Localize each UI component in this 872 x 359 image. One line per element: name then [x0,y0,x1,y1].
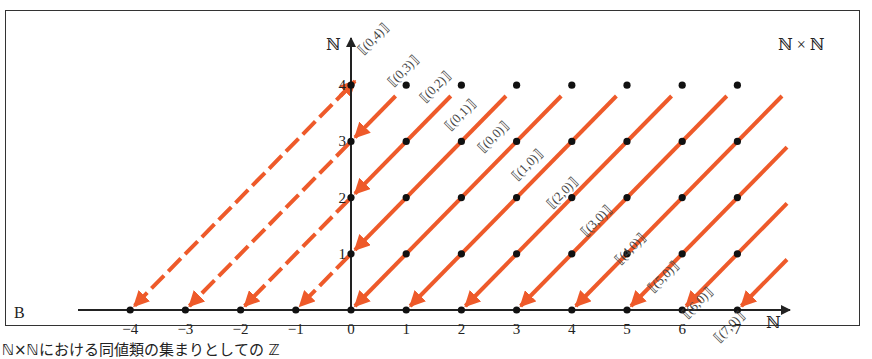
x-tick-label: 0 [347,321,355,337]
x-tick-label: −4 [122,321,138,337]
equivalence-line [355,96,561,306]
lattice-point [403,306,410,313]
class-labels: ⟦(0,4)⟧⟦(0,3)⟧⟦(0,2)⟧⟦(0,1)⟧⟦(0,0)⟧⟦(1,0… [354,20,747,345]
lattice-point [679,82,686,89]
lattice-point [734,82,741,89]
lattice-point [568,82,575,89]
y-tick-label: 1 [339,246,347,262]
lattice-point [734,194,741,201]
lattice-point [347,82,354,89]
lattice-point [347,194,354,201]
equivalence-line-dashed [245,200,349,306]
lattice-point [458,138,465,145]
lattice-point [403,138,410,145]
lattice-point [679,250,686,257]
lattice-point [403,194,410,201]
lattice-point [458,250,465,257]
lattice-point [734,250,741,257]
lattice-point [403,250,410,257]
equivalence-line [355,96,451,194]
lattice-point [623,306,630,313]
lattice-point [568,306,575,313]
svg-text:⟦(0,3)⟧: ⟦(0,3)⟧ [384,52,421,89]
equivalence-line-dashed [300,256,349,306]
figure-caption: ℕ×ℕにおける同値類の集まりとしての ℤ [2,338,280,359]
x-tick-label: −1 [288,321,304,337]
lattice-point [623,138,630,145]
class-label: ⟦(7,0)⟧ [710,308,747,345]
lattice-point [458,194,465,201]
class-label: ⟦(0,3)⟧ [384,52,421,89]
integer-point [182,306,189,313]
svg-text:⟦(0,4)⟧: ⟦(0,4)⟧ [354,20,391,57]
equivalence-line [576,96,782,306]
lattice-point [347,306,354,313]
integer-point [292,306,299,313]
set-label: ℕ × ℕ [778,36,825,53]
x-tick-label: −3 [177,321,193,337]
y-tick-label: 2 [339,190,347,206]
x-tick-label: 1 [402,321,410,337]
class-label: ⟦(1,0)⟧ [508,146,545,183]
x-tick-label: 6 [678,321,686,337]
svg-text:⟦(1,0)⟧: ⟦(1,0)⟧ [508,146,545,183]
x-tick-label: 7 [734,321,742,337]
equivalence-line [741,260,787,306]
lattice-point [458,82,465,89]
class-label: ⟦(4,0)⟧ [611,230,648,267]
svg-text:⟦(7,0)⟧: ⟦(7,0)⟧ [710,308,747,345]
lattice-point [347,138,354,145]
lattice-point [458,306,465,313]
class-label: ⟦(0,4)⟧ [354,20,391,57]
lattice-point [513,82,520,89]
lattice-point [513,306,520,313]
lattice-point [734,138,741,145]
x-tick-label: 5 [623,321,631,337]
equivalence-line-dashed [134,87,349,306]
lattice-point [513,194,520,201]
integer-point [127,306,134,313]
equivalence-line [410,96,616,306]
integer-point [237,306,244,313]
lattice-point [679,138,686,145]
class-label: ⟦(6,0)⟧ [678,284,715,321]
lattice-point [347,250,354,257]
panel-letter: B [14,304,25,321]
y-tick-label: 3 [339,133,347,149]
lattice-point [623,82,630,89]
lattice-point [679,194,686,201]
lattice-point [513,250,520,257]
x-tick-label: 3 [513,321,521,337]
svg-text:⟦(6,0)⟧: ⟦(6,0)⟧ [678,284,715,321]
x-axis-label: ℕ [766,314,781,331]
class-label: ⟦(5,0)⟧ [644,258,681,295]
lattice-point [623,194,630,201]
class-label: ⟦(3,0)⟧ [577,202,614,239]
lattice-point [568,138,575,145]
lattice-point [403,82,410,89]
svg-text:⟦(3,0)⟧: ⟦(3,0)⟧ [577,202,614,239]
x-tick-label: 2 [458,321,466,337]
x-tick-label: 4 [568,321,576,337]
equivalence-line [355,96,396,137]
y-tick-label: 4 [339,77,347,93]
svg-text:⟦(4,0)⟧: ⟦(4,0)⟧ [611,230,648,267]
y-axis-label: ℕ [326,36,341,53]
lattice-point [513,138,520,145]
svg-text:⟦(5,0)⟧: ⟦(5,0)⟧ [644,258,681,295]
x-tick-label: −2 [233,321,249,337]
lattice-point [568,250,575,257]
